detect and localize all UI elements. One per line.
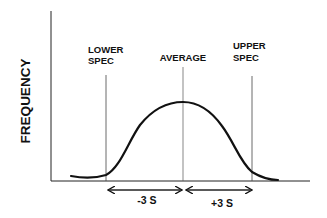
lower-spec-label-line1: LOWER	[88, 44, 123, 55]
plus-3s-label: +3 S	[211, 197, 233, 209]
minus-3s-label: -3 S	[137, 194, 156, 206]
upper-spec-label-line2: SPEC	[233, 52, 259, 63]
upper-spec-label-line1: UPPER	[233, 40, 266, 51]
lower-spec-label-line2: SPEC	[88, 55, 114, 66]
y-axis-label: FREQUENCY	[18, 59, 33, 144]
frequency-distribution-diagram: FREQUENCY LOWER SPEC AVERAGE UPPER SPEC …	[0, 0, 327, 218]
average-label: AVERAGE	[160, 52, 206, 63]
distribution-curve	[71, 102, 278, 180]
